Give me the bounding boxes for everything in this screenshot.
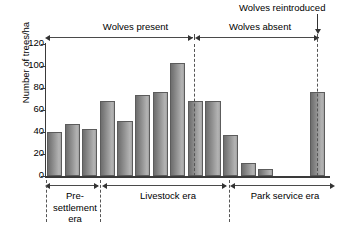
bracket-wolves-present [47,37,193,38]
bar-9 [188,101,203,176]
label-wolves-present: Wolves present [73,21,198,32]
y-tick-mark-120 [41,44,45,45]
y-tick-40: 40 [18,126,44,136]
bracket-park-service-left-arrow [230,183,235,189]
bracket-livestock-left-arrow [102,183,107,189]
y-tick-mark-40 [41,132,45,133]
bracket-wolves-absent-right-arrow [314,35,319,41]
bar-11 [223,135,238,176]
y-tick-mark-60 [41,110,45,111]
bracket-park-service [233,185,331,186]
bracket-wolves-present-left-arrow [45,35,50,41]
bracket-pre-settlement-right-arrow [94,183,99,189]
y-tick-80: 80 [18,82,44,92]
bracket-livestock-right-arrow [222,183,227,189]
y-tick-0: 0 [18,170,44,180]
bar-5 [117,121,132,176]
bar-8 [170,63,185,176]
y-tick-100: 100 [18,60,44,70]
bar-3 [82,129,97,176]
bracket-livestock [104,185,226,186]
label-pre-settlement-era: Pre- settlement era [52,190,98,225]
bar-10 [205,101,220,176]
bar-7 [153,92,168,176]
bracket-park-service-right-arrow [330,183,335,189]
bar-6 [135,95,150,176]
bracket-pre-settlement [48,185,98,186]
bar-1 [47,132,62,176]
y-tick-60: 60 [18,104,44,114]
y-tick-mark-20 [41,154,45,155]
bracket-wolves-present-right-arrow [188,35,193,41]
bar-4 [100,101,115,176]
divider-wolves-reintroduced [317,34,318,176]
divider-wolves-present-absent [194,44,195,176]
bar-13 [258,169,273,176]
bar-12 [241,163,256,176]
bars-container [46,44,330,176]
y-tick-mark-80 [41,88,45,89]
chart-root: Number of trees/ha 120 100 80 60 40 20 0… [0,0,340,227]
label-livestock-era: Livestock era [123,190,213,202]
bracket-wolves-absent [197,37,319,38]
x-axis-line [45,176,330,178]
y-tick-120: 120 [18,38,44,48]
bar-2 [65,124,80,176]
wolves-reintroduced-arrow [315,29,321,34]
wolves-reintroduced-leader-line [317,14,318,30]
y-tick-20: 20 [18,148,44,158]
label-wolves-reintroduced: Wolves reintroduced [239,2,325,13]
era-divider-pre-settlement [100,180,101,222]
era-divider-left [46,180,47,222]
label-wolves-absent: Wolves absent [205,21,315,32]
y-tick-mark-100 [41,66,45,67]
bracket-wolves-absent-left-arrow [195,35,200,41]
label-park-service-era: Park service era [240,190,330,202]
